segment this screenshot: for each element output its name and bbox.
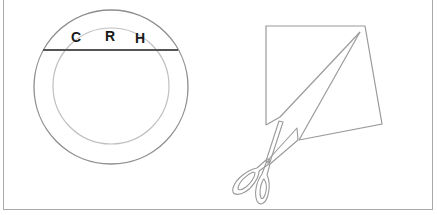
label-h: H xyxy=(135,30,145,46)
cut-line-inner xyxy=(299,32,360,140)
scissors-handle-left-inner xyxy=(238,172,255,190)
paper-shape xyxy=(266,26,382,140)
scissors-icon xyxy=(233,121,298,204)
circle-diagram: C R H xyxy=(34,10,188,164)
figure-canvas: C R H xyxy=(0,0,437,215)
inner-circle xyxy=(53,28,169,144)
paper-outline xyxy=(266,26,382,140)
scissors-handle-left xyxy=(233,168,259,194)
label-r: R xyxy=(105,28,115,44)
cut-line-outer xyxy=(280,32,360,117)
label-c: C xyxy=(71,29,81,45)
scissors-blade-upper xyxy=(266,121,283,162)
scissors-blade-lower xyxy=(268,128,298,164)
scissors-handle-right-inner xyxy=(260,179,266,199)
